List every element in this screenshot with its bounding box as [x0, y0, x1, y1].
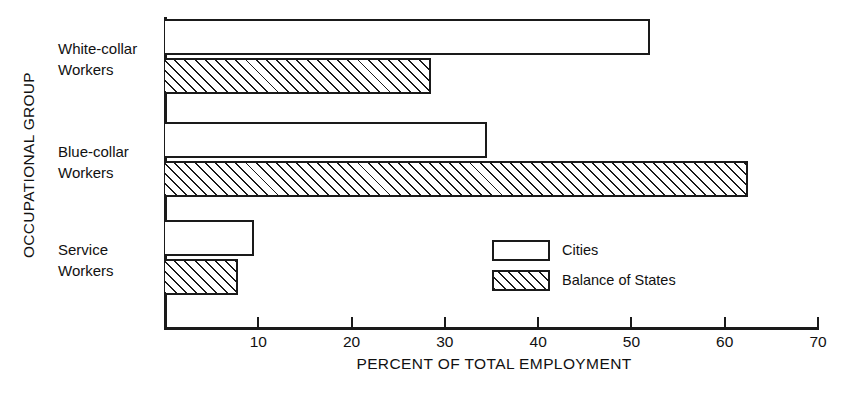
bar-blue-collar-cities [165, 122, 487, 158]
legend-swatch-open [492, 240, 550, 261]
x-axis-tick-label-20: 20 [343, 333, 360, 351]
legend-label-balance-of-states: Balance of States [562, 272, 676, 288]
legend-item-cities: Cities [492, 238, 676, 262]
bar-white-collar-cities [165, 19, 650, 55]
legend-item-balance-of-states: Balance of States [492, 268, 676, 292]
plot-area: 10203040506070 [0, 0, 845, 394]
x-axis-line [164, 327, 819, 330]
x-axis-tick-label-10: 10 [250, 333, 267, 351]
bar-service-balance-of-states [165, 259, 238, 295]
x-axis-tick-label-70: 70 [809, 333, 826, 351]
x-axis-title: PERCENT OF TOTAL EMPLOYMENT [164, 355, 824, 373]
chart-legend: Cities Balance of States [492, 238, 676, 298]
bar-white-collar-balance-of-states [165, 58, 431, 94]
x-axis-tick-30 [444, 317, 446, 328]
x-axis-tick-50 [630, 317, 632, 328]
bar-chart-figure: OCCUPATIONAL GROUP White-collar Workers … [0, 0, 845, 394]
bar-blue-collar-balance-of-states [165, 161, 748, 197]
x-axis-tick-20 [351, 317, 353, 328]
x-axis-tick-40 [537, 317, 539, 328]
x-axis-tick-10 [257, 317, 259, 328]
legend-swatch-hatched [492, 270, 550, 291]
x-axis-tick-label-60: 60 [716, 333, 733, 351]
x-axis-tick-70 [817, 317, 819, 328]
x-axis-tick-label-30: 30 [436, 333, 453, 351]
x-axis-tick-60 [724, 317, 726, 328]
bar-service-cities [165, 220, 254, 256]
x-axis-tick-label-50: 50 [623, 333, 640, 351]
legend-label-cities: Cities [562, 242, 598, 258]
x-axis-tick-label-40: 40 [530, 333, 547, 351]
